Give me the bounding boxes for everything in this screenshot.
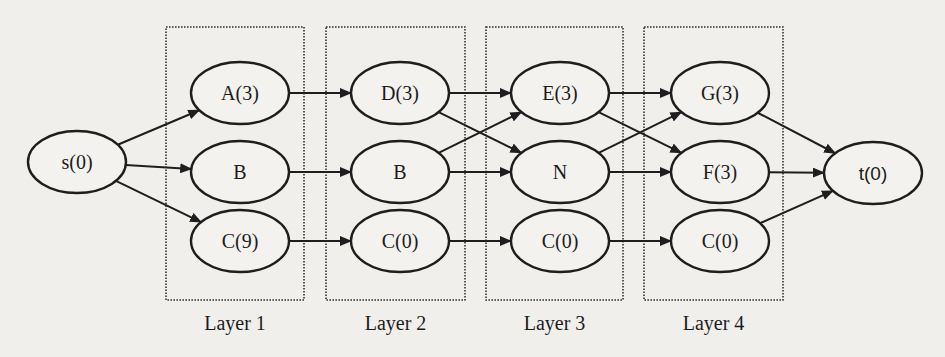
edge-C4-to-t xyxy=(760,191,833,223)
node-label: B xyxy=(393,161,406,183)
node-G: G(3) xyxy=(671,62,769,124)
node-label: C(0) xyxy=(382,230,419,253)
node-label: C(0) xyxy=(542,230,579,253)
node-label: A(3) xyxy=(221,82,259,105)
node-A: A(3) xyxy=(191,62,289,124)
node-s: s(0) xyxy=(28,131,126,193)
node-label: G(3) xyxy=(701,82,739,105)
edge-s-to-C1 xyxy=(116,181,201,222)
node-label: N xyxy=(553,161,567,183)
node-F: F(3) xyxy=(671,141,769,203)
layer-label-1: Layer 1 xyxy=(204,312,266,335)
node-label: D(3) xyxy=(381,82,419,105)
node-C4: C(0) xyxy=(671,210,769,272)
node-label: t(0) xyxy=(859,163,888,184)
node-t: t(0) xyxy=(824,142,922,204)
node-B1: B xyxy=(191,141,289,203)
node-label: C(0) xyxy=(702,230,739,253)
layer-label-4: Layer 4 xyxy=(683,312,745,335)
layer-label-3: Layer 3 xyxy=(524,312,586,335)
node-C3: C(0) xyxy=(511,210,609,272)
node-label: F(3) xyxy=(703,161,737,184)
node-label: E(3) xyxy=(542,82,578,105)
edge-s-to-A xyxy=(118,110,200,145)
node-C2: C(0) xyxy=(351,210,449,272)
node-E: E(3) xyxy=(511,62,609,124)
layer-label-2: Layer 2 xyxy=(365,312,427,335)
edge-G-to-t xyxy=(758,113,835,154)
node-label: s(0) xyxy=(61,151,92,174)
node-C1: C(9) xyxy=(191,210,289,272)
layer-labels: Layer 1Layer 2Layer 3Layer 4 xyxy=(204,312,744,335)
edge-s-to-B1 xyxy=(126,165,191,169)
node-label: C(9) xyxy=(222,230,259,253)
layered-network-diagram: s(0)A(3)BC(9)D(3)BC(0)E(3)NC(0)G(3)F(3)C… xyxy=(0,0,945,357)
node-N: N xyxy=(511,141,609,203)
node-B2: B xyxy=(351,141,449,203)
node-label: B xyxy=(233,161,246,183)
node-D: D(3) xyxy=(351,62,449,124)
